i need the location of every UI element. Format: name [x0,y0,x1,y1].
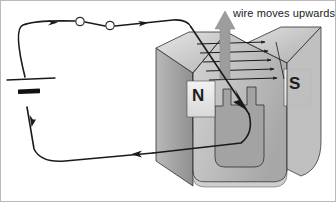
physics-diagram-figure: wire moves upwards N S [0,0,336,202]
battery-positive-plate [7,78,55,80]
wire-top-left-segment [18,21,75,77]
switch-contact-left[interactable] [76,17,84,25]
horseshoe-magnet [156,27,321,187]
switch-contact-right[interactable] [106,21,114,29]
north-pole-label: N [192,87,204,104]
wire-bottom-segment [27,107,153,161]
battery-negative-plate [18,89,40,94]
caption-wire-moves-upwards: wire moves upwards [233,7,335,19]
battery-cell [7,78,55,94]
wire-top-right-segment [115,20,191,27]
diagram-canvas [1,1,336,202]
wire-switch-link [85,22,105,26]
south-pole-label: S [289,75,300,92]
